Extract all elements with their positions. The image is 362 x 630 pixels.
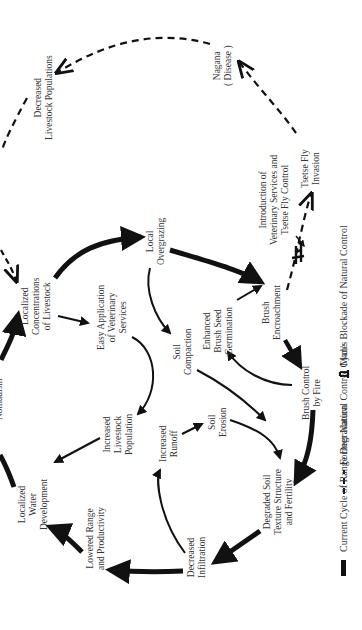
node-localized-concentrations: Localized Concentrations of Livestock [20,277,53,335]
arrow-runoff-to-erosion [182,424,202,434]
arrow-fire-to-degraded [296,410,313,482]
legend-blockade: Man's Blockade of Natural Control [338,225,349,366]
node-nomadism: Nomadism [0,378,5,420]
node-increased-runoff: Increased Runoff [158,426,180,462]
arrow-overgrazing-to-brush [170,250,261,282]
dashed-arrow-nagana-to-decreased [58,38,210,72]
node-brush-control-by-fire: Brush Control by Fire [301,366,323,420]
dashed-arrow-into-localized [1,250,16,280]
arrow-degraded-to-infiltration [215,531,260,562]
node-decreased-infiltration: Decreased Infiltration [186,537,208,578]
node-easy-application: Easy Application of Veterinary Services [96,285,129,350]
node-decreased-livestock-populations: Decreased Livestock Populations [33,55,55,140]
node-localized-water-development: Localized Water Development [17,479,50,530]
dashed-arrow-tsetse-to-nagana [240,63,296,133]
arrow-brush-to-fire [285,340,300,366]
arrow-fire-to-germination [228,352,292,385]
arrow-water-to-nomadism [0,455,14,487]
node-soil-compaction: Soil Compaction [172,329,194,375]
node-lowered-range: Lowered Range and Productivity [85,507,107,570]
node-tsetse-fly-invasion: Tsetse Fly Invasion [300,149,322,188]
node-nagana: Nagana ( Disease ) [212,45,234,86]
arrow-infiltration-to-lowered [110,570,183,572]
arrow-erosion-to-degraded [230,420,280,458]
arrow-easy-to-increased-livestock [132,337,153,414]
arrow-concentrations-to-easy [58,316,88,323]
node-degraded-soil: Degraded Soil Texture Structure and Fert… [262,469,295,535]
node-enhanced-brush-seed: Enhanced Brush Seed Germination [202,307,235,355]
arrow-overgrazing-to-compaction [148,268,170,333]
arrow-increased-livestock-to-water [55,438,100,462]
arrow-nomadism-to-concentrations [1,315,18,360]
arrow-lowered-to-water [50,527,82,552]
node-soil-erosion: Soil Erosion [207,407,229,437]
node-local-overgrazing: Local Overgrazing [145,218,167,265]
legend-solid-swatch [341,560,346,576]
arrow-concentrations-to-overgrazing [55,237,141,278]
node-brush-encroachment: Brush Encroachment [261,285,283,340]
node-introduction-veterinary: Introduction of Veterinary Services and … [258,155,291,245]
arrow-germination-to-brush [237,286,261,300]
node-increased-livestock-population: Increased Livestock Population [102,414,135,455]
arrow-infiltration-to-runoff [158,470,185,553]
dashed-arrow-decreased-to-localized [2,98,27,150]
